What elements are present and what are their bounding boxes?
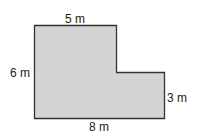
top-dimension-label: 5 m <box>65 13 85 25</box>
right-dimension-label: 3 m <box>167 92 187 104</box>
bottom-dimension-label: 8 m <box>89 121 109 133</box>
l-shape-polygon <box>35 26 165 119</box>
left-dimension-label: 6 m <box>10 67 30 79</box>
